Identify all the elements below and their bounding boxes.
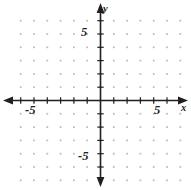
x-axis-tick-label-5: 5 xyxy=(154,104,160,117)
x-axis-tick-label-neg5: -5 xyxy=(25,104,35,117)
x-axis-name-label: x xyxy=(181,103,186,114)
x-axis-arrow-left xyxy=(3,97,13,105)
y-axis-tick-label-5: 5 xyxy=(81,26,87,39)
axes-layer xyxy=(0,0,191,190)
coordinate-plane-figure: y x 5 -5 5 -5 xyxy=(0,0,191,190)
y-axis-arrow-down xyxy=(97,177,105,187)
y-axis xyxy=(97,3,105,187)
y-axis-tick-label-neg5: -5 xyxy=(78,150,88,163)
y-axis-name-label: y xyxy=(103,4,108,15)
